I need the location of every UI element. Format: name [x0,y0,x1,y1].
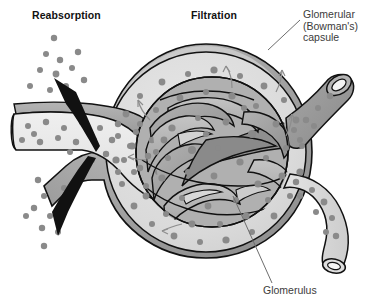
nephron-diagram [0,0,377,306]
figure-canvas: Reabsorption Filtration Glomerular (Bowm… [0,0,377,306]
label-glomerulus: Glomerulus [263,285,317,297]
label-glomerular-capsule: Glomerular (Bowman's) capsule [303,9,358,44]
label-filtration: Filtration [191,9,237,21]
label-capsule-line1: Glomerular [303,9,358,21]
label-capsule-line3: capsule [303,32,358,44]
capsule-leader-line [268,20,300,50]
label-reabsorption: Reabsorption [32,9,101,21]
